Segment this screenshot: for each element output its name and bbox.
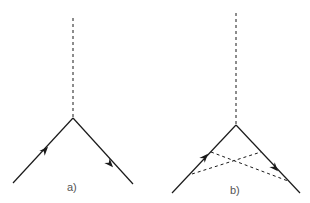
arrow-icon xyxy=(266,158,275,168)
incoming-fermion-line xyxy=(172,125,236,193)
diagram-b: b) xyxy=(172,13,300,196)
outgoing-fermion-line xyxy=(73,118,133,184)
exchange-line xyxy=(211,152,288,181)
diagram-label-a: a) xyxy=(67,181,77,193)
incoming-fermion-line xyxy=(13,118,73,183)
outgoing-fermion-line xyxy=(236,125,300,193)
exchange-line xyxy=(192,152,261,174)
diagram-label-b: b) xyxy=(230,184,240,196)
diagram-a: a) xyxy=(13,18,133,193)
arrow-icon xyxy=(101,154,110,164)
feynman-diagrams: a) b) xyxy=(0,0,310,203)
arrow-icon xyxy=(36,150,45,160)
